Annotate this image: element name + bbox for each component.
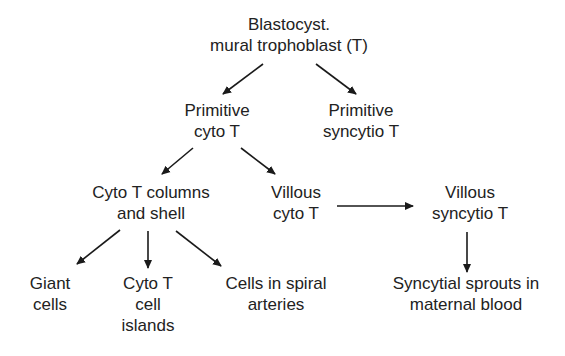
node-primitive-syncytio-line1: Primitive — [323, 100, 399, 121]
node-primitive-cyto-line2: cyto T — [184, 121, 249, 142]
arrow-blastocyst-to-primitive-syncytio — [316, 64, 356, 94]
node-primitive-syncytio: Primitive syncytio T — [323, 100, 399, 142]
node-cyto-columns-line2: and shell — [92, 203, 209, 224]
node-cell-islands-line2: cell — [122, 294, 175, 315]
node-spiral-arteries-line1: Cells in spiral — [225, 273, 326, 294]
node-cyto-columns-line1: Cyto T columns — [92, 182, 209, 203]
node-cell-islands: Cyto T cell islands — [122, 273, 175, 336]
arrow-blastocyst-to-primitive-cyto — [223, 64, 263, 94]
node-giant-cells-line1: Giant — [30, 273, 71, 294]
node-cell-islands-line3: islands — [122, 315, 175, 336]
arrow-cyto-columns-to-spiral-arteries — [176, 231, 221, 266]
node-villous-syncytio-line2: syncytio T — [432, 203, 508, 224]
node-villous-cyto: Villous cyto T — [271, 182, 321, 224]
node-primitive-cyto: Primitive cyto T — [184, 100, 249, 142]
node-spiral-arteries: Cells in spiral arteries — [225, 273, 326, 315]
node-primitive-cyto-line1: Primitive — [184, 100, 249, 121]
node-primitive-syncytio-line2: syncytio T — [323, 121, 399, 142]
node-villous-syncytio: Villous syncytio T — [432, 182, 508, 224]
arrow-primitive-cyto-to-villous-cyto — [241, 148, 275, 174]
node-blastocyst-line1: Blastocyst. — [210, 14, 368, 35]
node-cyto-columns: Cyto T columns and shell — [92, 182, 209, 224]
arrow-primitive-cyto-to-cyto-columns — [162, 148, 193, 174]
node-cell-islands-line1: Cyto T — [122, 273, 175, 294]
node-syncytial-sprouts-line1: Syncytial sprouts in — [393, 273, 539, 294]
node-giant-cells: Giant cells — [30, 273, 71, 315]
node-villous-cyto-line2: cyto T — [271, 203, 321, 224]
arrow-cyto-columns-to-giant-cells — [77, 230, 120, 264]
node-blastocyst: Blastocyst. mural trophoblast (T) — [210, 14, 368, 56]
node-villous-syncytio-line1: Villous — [432, 182, 508, 203]
node-syncytial-sprouts: Syncytial sprouts in maternal blood — [393, 273, 539, 315]
node-spiral-arteries-line2: arteries — [225, 294, 326, 315]
node-giant-cells-line2: cells — [30, 294, 71, 315]
node-syncytial-sprouts-line2: maternal blood — [393, 294, 539, 315]
node-blastocyst-line2: mural trophoblast (T) — [210, 35, 368, 56]
node-villous-cyto-line1: Villous — [271, 182, 321, 203]
